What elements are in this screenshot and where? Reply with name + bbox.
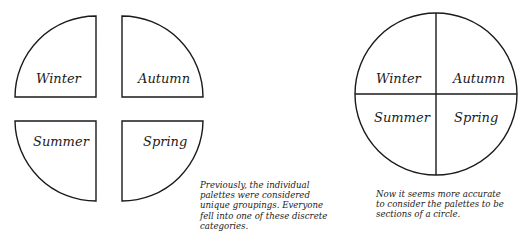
unified-circle-diagram: Winter Autumn Summer Spring	[355, 13, 517, 175]
separated-palettes-caption: Previously, the individual palettes were…	[200, 180, 330, 231]
spring-segment	[122, 121, 203, 201]
caption-line: unique groupings. Everyone	[200, 200, 330, 210]
spring-label: Spring	[143, 134, 187, 149]
summer-section-label: Summer	[374, 110, 431, 125]
winter-label: Winter	[36, 71, 82, 86]
summer-segment	[15, 121, 96, 201]
caption-line: Previously, the individual	[200, 180, 330, 190]
caption-line: to consider the palettes to be	[376, 199, 516, 209]
winter-section-label: Winter	[376, 71, 422, 86]
spring-section-label: Spring	[454, 110, 498, 125]
separated-palettes-diagram: Winter Autumn Summer Spring	[15, 16, 203, 201]
autumn-section-label: Autumn	[452, 71, 505, 86]
summer-label: Summer	[33, 134, 90, 149]
autumn-label: Autumn	[137, 71, 190, 86]
caption-line: categories.	[200, 221, 330, 231]
unified-circle-caption: Now it seems more accurate to consider t…	[376, 189, 516, 220]
caption-line: sections of a circle.	[376, 209, 516, 219]
caption-line: fell into one of these discrete	[200, 211, 330, 221]
caption-line: palettes were considered	[200, 190, 330, 200]
caption-line: Now it seems more accurate	[376, 189, 516, 199]
